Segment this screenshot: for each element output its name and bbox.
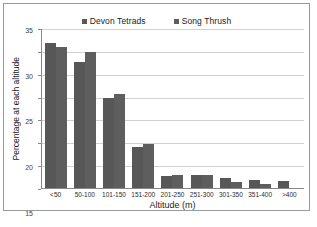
x-axis-tick-label: >400 <box>275 191 304 198</box>
x-axis-tick-label: 101-150 <box>99 191 128 198</box>
y-axis-title: Percentage at each altitude <box>10 29 22 189</box>
axis-lines <box>41 29 304 189</box>
y-axis-tick-label: 35 <box>25 27 33 34</box>
y-axis-tick: 35 <box>38 29 41 30</box>
chart-container: Devon Tetrads Song Thrush Percentage at … <box>3 3 310 211</box>
x-axis-tick-label: 201-250 <box>158 191 187 198</box>
chart-legend: Devon Tetrads Song Thrush <box>4 16 309 26</box>
plot-area: 05101520253035 <box>41 29 304 189</box>
y-axis-tick: 5 <box>38 166 41 167</box>
y-axis-tick: 20 <box>38 98 41 99</box>
y-axis-tick-label: 30 <box>25 72 33 79</box>
x-axis-title: Altitude (m) <box>41 200 304 210</box>
y-axis-tick: 15 <box>38 120 41 121</box>
y-axis-tick-label: 25 <box>25 118 33 125</box>
legend-label: Devon Tetrads <box>90 16 146 26</box>
x-axis-tick-label: 351-400 <box>246 191 275 198</box>
legend-swatch-icon <box>174 19 179 24</box>
y-axis-tick-label: 15 <box>25 209 33 216</box>
legend-item-song-thrush[interactable]: Song Thrush <box>174 16 232 26</box>
legend-label: Song Thrush <box>182 16 232 26</box>
y-axis-title-text: Percentage at each altitude <box>11 57 21 161</box>
y-axis-tick-label: 20 <box>25 164 33 171</box>
y-axis-tick: 0 <box>38 189 41 190</box>
x-axis-tick-label: 301-350 <box>216 191 245 198</box>
y-axis-tick: 30 <box>38 52 41 53</box>
legend-swatch-icon <box>82 19 87 24</box>
legend-item-devon-tetrads[interactable]: Devon Tetrads <box>82 16 146 26</box>
y-axis-tick: 25 <box>38 75 41 76</box>
x-axis-tick-label: <50 <box>41 191 70 198</box>
x-axis-tick-label: 151-200 <box>129 191 158 198</box>
x-axis-tick-labels: <5050-100101-150151-200201-250251-300301… <box>41 191 304 198</box>
x-axis-tick-label: 251-300 <box>187 191 216 198</box>
y-axis-tick: 10 <box>38 143 41 144</box>
x-axis-tick-label: 50-100 <box>70 191 99 198</box>
